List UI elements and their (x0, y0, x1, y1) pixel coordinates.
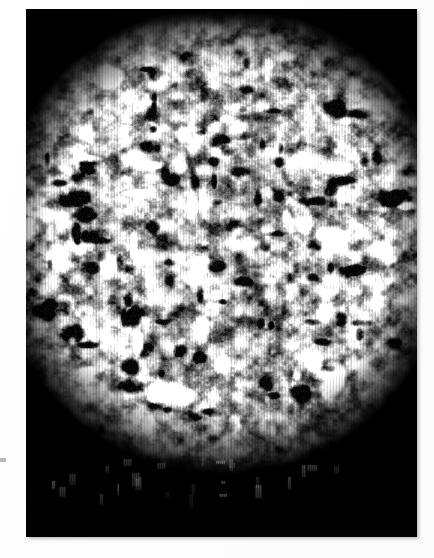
photographic-plate (26, 9, 417, 537)
page-canvas (0, 0, 434, 558)
margin-tick-mark (0, 458, 6, 462)
speckle-disc-image (26, 9, 417, 537)
